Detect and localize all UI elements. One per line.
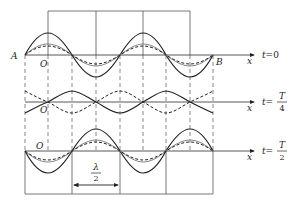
time-label-t0: t=0 bbox=[262, 50, 279, 60]
time-label-tT4: t= T 4 bbox=[262, 91, 287, 113]
label-B: B bbox=[215, 57, 223, 67]
lambda-numerator: λ bbox=[92, 162, 99, 172]
lambda-denominator: 2 bbox=[93, 174, 98, 183]
svg-text:t=: t= bbox=[262, 146, 273, 156]
label-origin-t0: O bbox=[40, 59, 48, 69]
svg-text:2: 2 bbox=[279, 153, 284, 162]
label-A: A bbox=[10, 51, 18, 61]
axes bbox=[25, 55, 254, 151]
svg-text:T: T bbox=[279, 91, 286, 101]
top-frame bbox=[48, 11, 190, 55]
svg-text:4: 4 bbox=[279, 104, 284, 113]
label-origin-tT4: O bbox=[40, 105, 48, 115]
bottom-frame bbox=[25, 151, 213, 194]
x-label-tT2: x bbox=[247, 152, 252, 162]
svg-text:T: T bbox=[279, 140, 286, 150]
time-label-tT2: t= T 2 bbox=[262, 140, 287, 162]
dashed-guides bbox=[25, 55, 213, 151]
standing-wave-diagram: λ 2 A O B O O x x x t=0 t= T 4 t= T 2 bbox=[0, 0, 297, 209]
label-origin-tT2: O bbox=[36, 141, 44, 151]
x-label-t0: x bbox=[247, 56, 252, 66]
svg-text:t=0: t=0 bbox=[262, 50, 279, 60]
x-label-tT4: x bbox=[247, 103, 252, 113]
svg-text:t=: t= bbox=[262, 97, 273, 107]
